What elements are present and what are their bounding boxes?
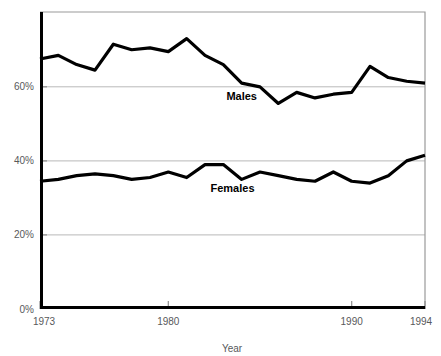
data-series-group [40, 39, 425, 183]
y-tick-label-60: 60% [14, 81, 34, 92]
y-tick-label-0: 0% [20, 304, 35, 315]
line-chart: 0%20%40%60% 1973198019901994 MalesFemale… [0, 0, 441, 356]
axis-l-shape [42, 12, 426, 308]
axis-lines [42, 12, 426, 308]
series-inline-labels: MalesFemales [210, 90, 257, 195]
x-axis-title: Year [222, 343, 243, 354]
y-axis-tick-labels: 0%20%40%60% [14, 81, 34, 314]
y-tick-label-40: 40% [14, 155, 34, 166]
series-label-females: Females [210, 182, 254, 194]
series-line-females [40, 155, 425, 183]
chart-container: 0%20%40%60% 1973198019901994 MalesFemale… [0, 0, 441, 356]
tick-marks-group [40, 87, 425, 309]
x-tick-label-1973: 1973 [33, 316, 56, 327]
x-tick-label-1990: 1990 [341, 316, 364, 327]
y-tick-label-20: 20% [14, 229, 34, 240]
x-tick-label-1994: 1994 [410, 316, 433, 327]
series-label-males: Males [226, 90, 257, 102]
x-axis-tick-labels: 1973198019901994 [33, 316, 433, 327]
x-tick-label-1980: 1980 [157, 316, 180, 327]
gridlines-group [40, 87, 425, 235]
